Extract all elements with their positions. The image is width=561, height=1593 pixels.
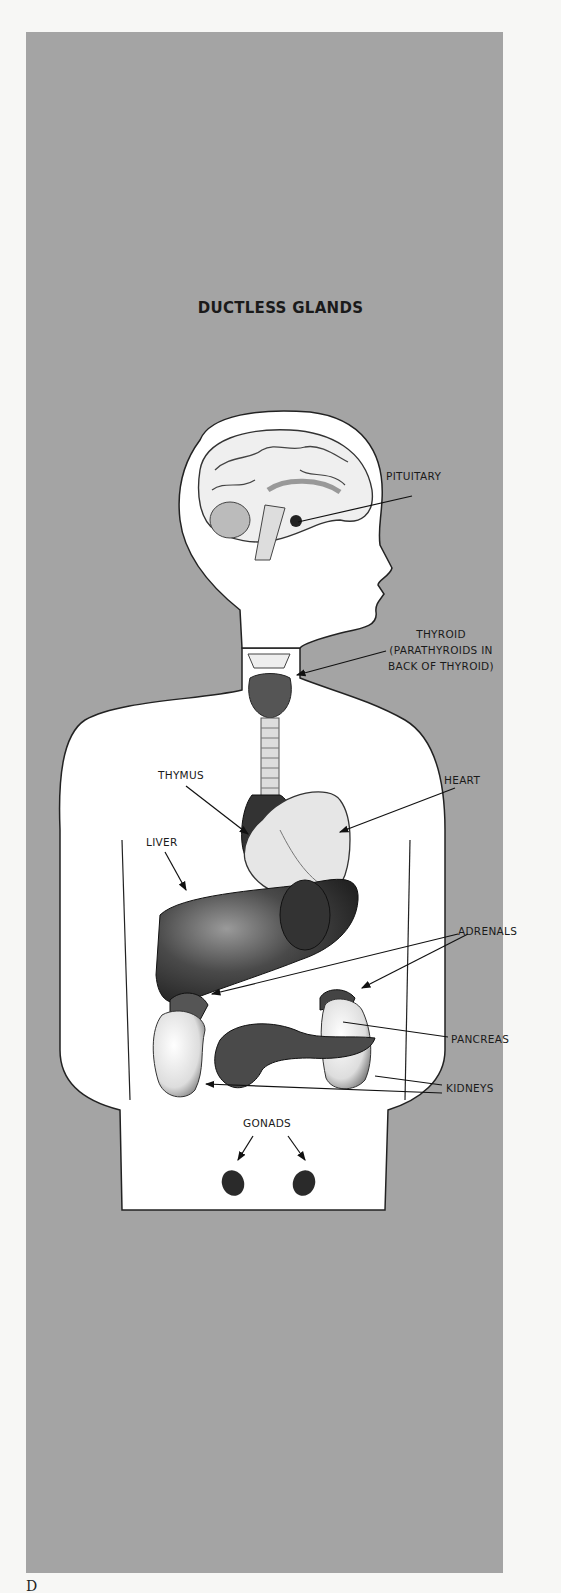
label-gonads: GONADS	[243, 1117, 291, 1129]
label-thyroid-note-2: BACK OF THYROID)	[382, 658, 500, 674]
anatomy-illustration	[0, 0, 561, 1593]
label-thymus: THYMUS	[158, 769, 204, 781]
label-kidneys: KIDNEYS	[446, 1082, 494, 1094]
label-thyroid: THYROID (PARATHYROIDS IN BACK OF THYROID…	[382, 626, 500, 674]
label-adrenals: ADRENALS	[458, 925, 517, 937]
label-thyroid-note-1: (PARATHYROIDS IN	[382, 642, 500, 658]
label-liver: LIVER	[146, 836, 178, 848]
label-pancreas: PANCREAS	[451, 1033, 509, 1045]
stomach-organ	[280, 880, 330, 950]
footer-text-fragment: D	[26, 1578, 37, 1593]
label-heart: HEART	[444, 774, 480, 786]
kidney-right	[153, 1011, 205, 1097]
label-pituitary: PITUITARY	[386, 470, 441, 482]
label-thyroid-title: THYROID	[382, 626, 500, 642]
